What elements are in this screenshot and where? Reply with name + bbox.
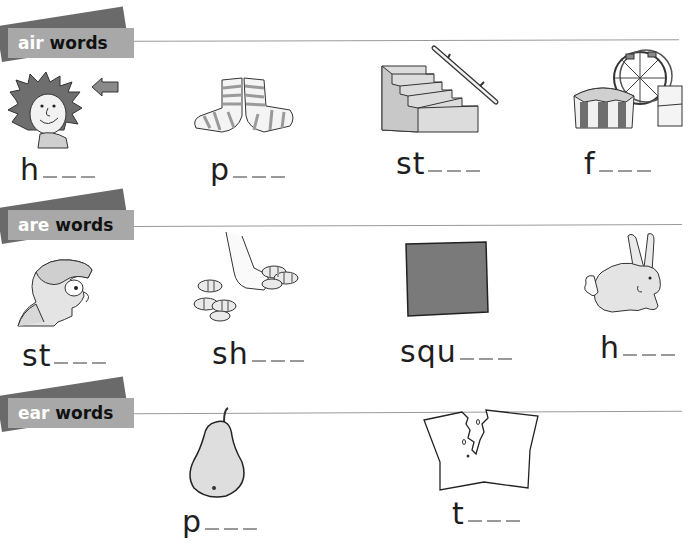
word-prompt-hair: h [20,152,100,187]
grey-square-icon [404,240,490,322]
letter-blanks[interactable] [205,504,262,539]
word-start: squ [400,334,457,369]
banner-suffix: words [55,403,113,423]
stairs-with-handrail-icon [380,44,502,138]
word-start: st [396,146,425,181]
letter-blanks[interactable] [623,330,680,365]
word-start: p [210,152,230,187]
word-start: f [584,146,596,181]
torn-paper-icon [422,402,542,494]
word-prompt-fair: f [584,146,656,181]
word-prompt-square: squ [400,334,517,369]
word-prompt-hare: h [600,330,680,365]
word-start: st [22,338,51,373]
letter-blanks[interactable] [460,334,517,369]
word-prompt-stairs: st [396,146,485,181]
word-prompt-share: sh [212,336,309,371]
section-banner-are: are words [0,204,140,248]
section-divider [134,39,679,41]
letter-blanks[interactable] [233,152,290,187]
spiky-hair-boy-icon [8,72,120,154]
word-start: sh [212,336,249,371]
section-divider [134,224,682,227]
letter-blanks[interactable] [43,152,100,187]
word-start: t [452,496,465,531]
letter-blanks[interactable] [599,146,656,181]
word-start: h [20,152,40,187]
section-banner-air: air words [0,22,140,66]
letter-blanks[interactable] [428,146,485,181]
letter-blanks[interactable] [468,496,525,531]
staring-boy-icon [14,256,96,332]
banner-prefix: ear [18,403,49,423]
section-banner-ear: ear words [0,392,140,436]
word-start: p [182,504,202,539]
word-prompt-pair: p [210,152,290,187]
word-prompt-tear: t [452,496,525,531]
banner-prefix: air [18,33,44,53]
word-start: h [600,330,620,365]
pear-icon [186,406,250,502]
letter-blanks[interactable] [252,336,309,371]
banner-prefix: are [18,215,49,235]
banner-suffix: words [55,215,113,235]
hare-icon [582,232,672,320]
sharing-sweets-icon [186,232,306,330]
letter-blanks[interactable] [54,338,111,373]
word-prompt-pear: p [182,504,262,539]
banner-suffix: words [50,33,108,53]
striped-socks-icon [192,76,298,138]
word-prompt-stare: st [22,338,111,373]
fairground-big-wheel-icon [574,44,686,134]
